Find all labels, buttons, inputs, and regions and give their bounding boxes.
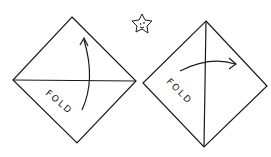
fold-step-1 [13, 17, 136, 143]
diagram-canvas: FOLD FOLD [0, 0, 271, 157]
fold-label-1: FOLD [44, 88, 75, 116]
fold-line-vertical [204, 21, 206, 147]
fold-label-2: FOLD [165, 76, 195, 106]
fold-arrow-up [82, 40, 90, 110]
fold-step-2 [143, 21, 267, 147]
fold-arrow-right [180, 61, 235, 71]
star-face-icon [132, 14, 152, 33]
fold-line-horizontal [13, 80, 136, 81]
